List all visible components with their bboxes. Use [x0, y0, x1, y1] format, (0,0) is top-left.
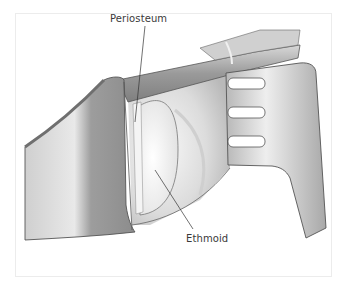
left-retractor-blade — [25, 77, 135, 240]
retractor-slots — [228, 78, 265, 147]
periosteum-label: Periosteum — [110, 13, 167, 24]
ethmoid-label: Ethmoid — [186, 233, 228, 244]
retractor-illustration — [0, 0, 346, 283]
right-retractor-blade — [226, 63, 326, 238]
